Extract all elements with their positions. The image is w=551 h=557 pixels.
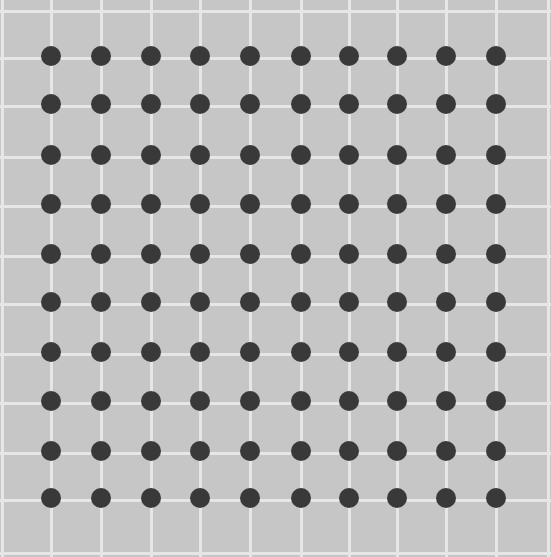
grid-dot [91, 145, 111, 165]
grid-dot [190, 244, 210, 264]
grid-dot [41, 391, 61, 411]
grid-dot [141, 244, 161, 264]
grid-dot [141, 441, 161, 461]
grid-dot [339, 292, 359, 312]
grid-vline [445, 0, 448, 557]
grid-hline [0, 353, 551, 356]
grid-dot [91, 292, 111, 312]
grid-dot [141, 145, 161, 165]
grid-dot [240, 342, 260, 362]
grid-dot [41, 145, 61, 165]
grid-dot [436, 391, 456, 411]
grid-hline [0, 499, 551, 502]
grid-dot [486, 342, 506, 362]
grid-dot [141, 46, 161, 66]
grid-dot [41, 194, 61, 214]
grid-dot [240, 145, 260, 165]
grid-dot [291, 391, 311, 411]
grid-vline [348, 0, 351, 557]
grid-vline [249, 0, 252, 557]
grid-dot [387, 244, 407, 264]
grid-vline [1, 0, 4, 557]
grid-vline [150, 0, 153, 557]
grid-dot [339, 441, 359, 461]
grid-dot [190, 145, 210, 165]
grid-dot [141, 194, 161, 214]
grid-dot [436, 244, 456, 264]
grid-dot [141, 292, 161, 312]
grid-dot [436, 488, 456, 508]
grid-dot [436, 145, 456, 165]
grid-dot [41, 46, 61, 66]
grid-dot [91, 391, 111, 411]
grid-dot [486, 145, 506, 165]
grid-dot [291, 244, 311, 264]
grid-dot [141, 342, 161, 362]
grid-dot [436, 342, 456, 362]
grid-dot [91, 244, 111, 264]
grid-dot [41, 94, 61, 114]
grid-vline [199, 0, 202, 557]
grid-dot [240, 244, 260, 264]
grid-dot [190, 292, 210, 312]
grid-dot [291, 94, 311, 114]
grid-vline [396, 0, 399, 557]
grid-dot [240, 46, 260, 66]
grid-dot [436, 441, 456, 461]
grid-dot [339, 145, 359, 165]
grid-dot [240, 194, 260, 214]
grid-hline [0, 303, 551, 306]
grid-dot [339, 391, 359, 411]
grid-dot [190, 488, 210, 508]
grid-dot [240, 94, 260, 114]
grid-dot [387, 46, 407, 66]
grid-dot [387, 342, 407, 362]
grid-hline [0, 105, 551, 108]
grid-dot [91, 94, 111, 114]
grid-hline [0, 255, 551, 258]
grid-dot [486, 194, 506, 214]
grid-hline [0, 57, 551, 60]
grid-dot [387, 194, 407, 214]
grid-dot [91, 46, 111, 66]
grid-dot [240, 391, 260, 411]
grid-dot [387, 145, 407, 165]
grid-dot [190, 441, 210, 461]
grid-dot [141, 488, 161, 508]
grid-vline [50, 0, 53, 557]
grid-vline [300, 0, 303, 557]
grid-hline [0, 552, 551, 555]
grid-dot [486, 391, 506, 411]
grid-dot [339, 244, 359, 264]
grid-dot [486, 94, 506, 114]
grid-dot [387, 391, 407, 411]
grid-dot [141, 391, 161, 411]
grid-dot [291, 488, 311, 508]
grid-dot [240, 441, 260, 461]
grid-dot [41, 292, 61, 312]
grid-dot [41, 441, 61, 461]
grid-hline [0, 452, 551, 455]
grid-dot [436, 194, 456, 214]
grid-dot [91, 488, 111, 508]
grid-dot [141, 94, 161, 114]
grid-hline [0, 402, 551, 405]
grid-dot [339, 194, 359, 214]
grid-dot [436, 94, 456, 114]
grid-dot [387, 292, 407, 312]
grid-dot [291, 342, 311, 362]
grid-dot [190, 94, 210, 114]
grid-dot [387, 94, 407, 114]
scintillating-grid [0, 0, 551, 557]
grid-dot [339, 488, 359, 508]
grid-dot [436, 46, 456, 66]
grid-dot [240, 488, 260, 508]
grid-hline [0, 205, 551, 208]
grid-dot [41, 488, 61, 508]
grid-dot [190, 391, 210, 411]
grid-dot [339, 94, 359, 114]
grid-dot [291, 292, 311, 312]
grid-dot [387, 441, 407, 461]
grid-dot [41, 342, 61, 362]
grid-dot [190, 194, 210, 214]
